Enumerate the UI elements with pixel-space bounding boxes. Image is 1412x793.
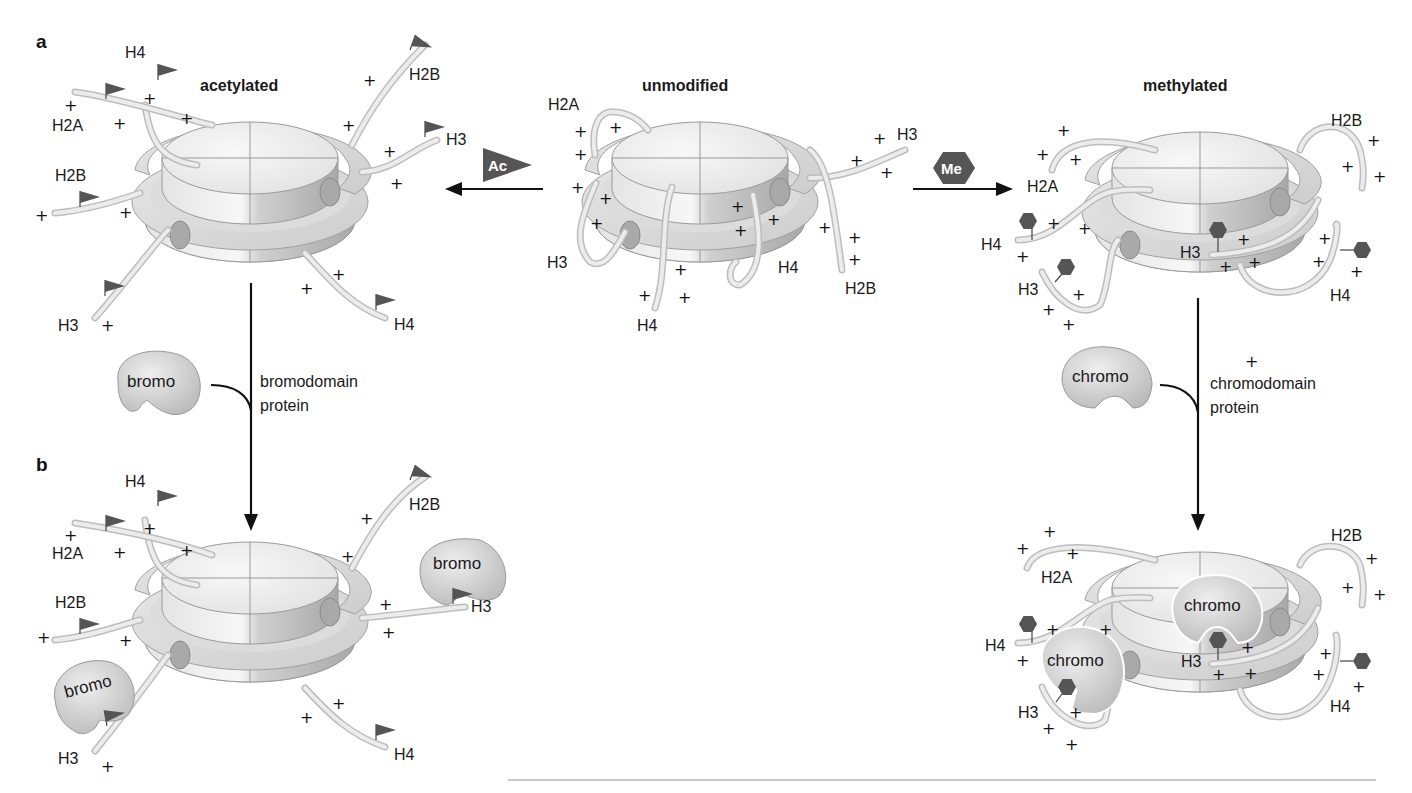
tail-label-h2b: H2B	[409, 66, 440, 83]
svg-text:+: +	[674, 260, 687, 279]
tail-label-h2b: H2B	[409, 496, 440, 513]
tail-label-h2a: H2A	[52, 117, 83, 134]
svg-text:+: +	[1365, 549, 1378, 568]
tail-label-h2a: H2A	[548, 96, 579, 113]
svg-text:+: +	[341, 547, 354, 566]
panel-label-a: a	[36, 31, 47, 52]
svg-text:+: +	[850, 151, 863, 170]
svg-text:+: +	[848, 250, 861, 269]
histone-modification-diagram: a b acetylated unmodified methylated H4 …	[0, 0, 1412, 793]
tail-label-h4: H4	[637, 317, 658, 334]
svg-text:+: +	[64, 96, 77, 115]
tail-label-h2a: H2A	[1041, 569, 1072, 586]
svg-text:+: +	[1341, 578, 1354, 597]
svg-text:+: +	[1042, 300, 1055, 319]
svg-text:+: +	[818, 218, 831, 237]
tail-label-h3: H3	[897, 126, 918, 143]
bound-bromo-label-right: bromo	[433, 554, 481, 573]
tail-label-h4: H4	[125, 473, 146, 490]
bromo-protein-label: bromo	[127, 372, 175, 391]
bromodomain-label-line1: bromodomain	[260, 373, 358, 390]
svg-text:+: +	[342, 116, 355, 135]
tail-label-h3: H3	[1018, 704, 1039, 721]
svg-text:+: +	[379, 595, 392, 614]
acetylation-arrow: Ac	[445, 148, 543, 196]
svg-text:+: +	[1244, 664, 1257, 683]
chromodomain-binding-step: chromo + chromodomain protein	[1062, 298, 1316, 531]
svg-text:+: +	[143, 89, 156, 108]
bromodomain-binding-step: bromo bromodomain protein	[118, 283, 358, 531]
unmodified-title: unmodified	[642, 77, 728, 94]
svg-text:+: +	[1065, 735, 1078, 754]
svg-text:+: +	[332, 694, 345, 713]
svg-text:+: +	[1241, 638, 1254, 657]
charge-plus: +	[1245, 352, 1258, 371]
svg-text:+: +	[390, 174, 403, 193]
tail-label-h2a: H2A	[52, 545, 83, 562]
svg-text:+: +	[1352, 677, 1365, 696]
svg-text:+: +	[1219, 257, 1232, 276]
tail-label-h3: H3	[58, 750, 79, 767]
svg-text:+: +	[848, 228, 861, 247]
svg-text:+: +	[300, 708, 313, 727]
svg-text:+: +	[180, 109, 193, 128]
bound-chromo-label-left: chromo	[1047, 651, 1104, 670]
tail-label-h3: H3	[471, 598, 492, 615]
tail-label-h3: H3	[1180, 244, 1201, 261]
acetylated-title: acetylated	[200, 77, 278, 94]
svg-text:+: +	[363, 71, 376, 90]
tail-label-h2b: H2B	[55, 167, 86, 184]
tail-label-h3: H3	[1181, 653, 1202, 670]
tail-label-h4: H4	[394, 746, 415, 763]
svg-text:+: +	[1367, 131, 1380, 150]
svg-text:+: +	[638, 286, 651, 305]
svg-text:+: +	[1016, 247, 1029, 266]
svg-text:+: +	[571, 178, 584, 197]
svg-text:+: +	[37, 628, 50, 647]
tail-label-h4: H4	[981, 236, 1002, 253]
chromodomain-label-line2: protein	[1210, 399, 1259, 416]
tail-label-h4: H4	[1330, 698, 1351, 715]
svg-text:+: +	[1016, 651, 1029, 670]
svg-text:+: +	[1062, 315, 1075, 334]
svg-text:+: +	[101, 757, 114, 776]
svg-text:+: +	[1069, 150, 1082, 169]
tail-label-h2b: H2B	[1331, 112, 1362, 129]
svg-text:+: +	[590, 214, 603, 233]
svg-text:+: +	[731, 197, 744, 216]
chromodomain-label-line1: chromodomain	[1210, 375, 1316, 392]
svg-text:+: +	[113, 543, 126, 562]
svg-text:+: +	[64, 526, 77, 545]
svg-text:+: +	[1046, 620, 1059, 639]
svg-text:+: +	[678, 288, 691, 307]
tail-label-h2a: H2A	[1027, 178, 1058, 195]
svg-text:+: +	[35, 206, 48, 225]
tail-label-h4: H4	[394, 316, 415, 333]
tail-label-h3: H3	[547, 254, 568, 271]
svg-text:+: +	[1237, 230, 1250, 249]
svg-text:+: +	[1078, 219, 1091, 238]
ac-badge-label: Ac	[488, 157, 507, 174]
tail-label-h2b: H2B	[845, 280, 876, 297]
svg-text:+: +	[113, 114, 126, 133]
svg-text:+: +	[332, 265, 345, 284]
svg-text:+: +	[1066, 544, 1079, 563]
svg-text:+: +	[1069, 703, 1082, 722]
tail-label-h4: H4	[125, 44, 146, 61]
svg-text:+: +	[1043, 522, 1056, 541]
svg-text:+: +	[1212, 665, 1225, 684]
svg-text:+: +	[1036, 145, 1049, 164]
chromo-protein-label: chromo	[1072, 367, 1129, 386]
svg-text:+: +	[1350, 262, 1363, 281]
svg-text:+: +	[1319, 644, 1332, 663]
svg-text:+: +	[1312, 252, 1325, 271]
tail-label-h2b: H2B	[1331, 527, 1362, 544]
tail-label-h2b: H2B	[55, 594, 86, 611]
svg-text:+: +	[119, 203, 132, 222]
svg-text:+: +	[1318, 229, 1331, 248]
tail-label-h4: H4	[1330, 287, 1351, 304]
svg-text:+: +	[609, 118, 622, 137]
svg-text:+: +	[1373, 585, 1386, 604]
svg-text:+: +	[1016, 539, 1029, 558]
svg-text:+: +	[360, 509, 373, 528]
